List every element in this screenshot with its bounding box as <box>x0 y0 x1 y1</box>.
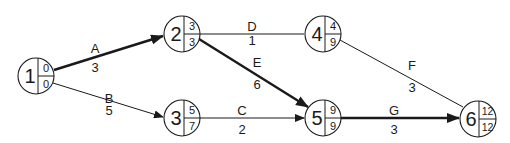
edge-b-duration: 5 <box>105 103 112 118</box>
edge-f-duration: 3 <box>408 80 415 95</box>
node-3-bottom: 7 <box>189 120 195 132</box>
node-2-bottom: 3 <box>189 36 195 48</box>
node-1-bottom: 0 <box>43 78 49 90</box>
node-5-id: 5 <box>311 107 322 129</box>
node-4: 4 4 9 <box>305 16 341 52</box>
edge-c: C 2 <box>200 103 304 137</box>
edge-d: D 1 <box>200 19 304 48</box>
node-6-top: 12 <box>482 105 494 117</box>
node-6-bottom: 12 <box>482 121 494 133</box>
edge-d-activity: D <box>247 19 256 34</box>
edge-e-duration: 6 <box>253 77 260 92</box>
node-3: 3 5 7 <box>164 100 200 136</box>
edge-f: F 3 <box>340 40 463 107</box>
edge-e-activity: E <box>253 55 262 70</box>
network-diagram: A 3 B 5 D 1 E 6 C 2 F 3 G 3 1 0 0 <box>0 0 510 143</box>
node-1-top: 0 <box>43 62 49 74</box>
edge-a-duration: 3 <box>91 60 98 75</box>
node-6-id: 6 <box>465 108 476 130</box>
edge-b: B 5 <box>53 83 163 118</box>
node-4-id: 4 <box>311 23 322 45</box>
node-3-id: 3 <box>170 107 181 129</box>
edge-g-activity: G <box>389 103 399 118</box>
node-2-id: 2 <box>170 23 181 45</box>
edge-a: A 3 <box>54 36 163 75</box>
edge-g-duration: 3 <box>390 122 397 137</box>
node-4-top: 4 <box>330 20 336 32</box>
node-5: 5 9 9 <box>305 100 341 136</box>
edge-d-duration: 1 <box>248 33 255 48</box>
node-6: 6 12 12 <box>460 101 496 137</box>
node-5-top: 9 <box>330 104 336 116</box>
node-3-top: 5 <box>189 104 195 116</box>
edge-a-activity: A <box>91 41 100 56</box>
node-4-bottom: 9 <box>330 36 336 48</box>
edge-g: G 3 <box>341 103 459 137</box>
edge-e: E 6 <box>199 39 308 107</box>
node-1-id: 1 <box>24 65 35 87</box>
edge-f-activity: F <box>408 58 416 73</box>
node-2-top: 3 <box>189 20 195 32</box>
node-5-bottom: 9 <box>330 120 336 132</box>
edge-c-duration: 2 <box>238 122 245 137</box>
edge-c-activity: C <box>237 103 246 118</box>
node-1: 1 0 0 <box>18 58 54 94</box>
node-2: 2 3 3 <box>164 16 200 52</box>
